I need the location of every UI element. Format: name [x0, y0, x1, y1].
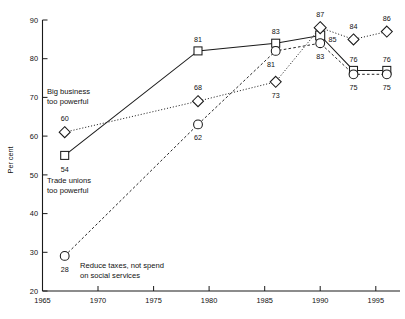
data-labels-big-business: 60 68 73 87 84 86	[61, 10, 391, 123]
annotation-trade-unions-line2: too powerful	[47, 186, 89, 195]
annotation-trade-unions-line1: Trade unions	[47, 176, 91, 185]
x-tick-label-1990: 1990	[312, 296, 328, 305]
data-label-square-1967: 54	[61, 165, 69, 174]
y-tick-label-20: 20	[30, 287, 38, 296]
annotation-big-business-line1: Big business	[47, 87, 90, 96]
annotation-trade-unions: Trade unions too powerful	[47, 176, 91, 195]
data-label-circle-1967: 28	[61, 265, 69, 274]
data-point-circle-1996	[382, 70, 391, 79]
data-label-circle-1996: 75	[383, 83, 391, 92]
y-tick-label-50: 50	[30, 171, 38, 180]
data-point-circle-1986	[271, 47, 280, 56]
data-point-circle-1979	[194, 120, 203, 129]
data-label-diamond-1986: 73	[272, 91, 280, 100]
y-tick-label-90: 90	[30, 16, 38, 25]
data-point-square-1979	[194, 47, 202, 55]
data-label-square-1979: 81	[194, 35, 202, 44]
series-markers-trade-unions	[61, 31, 391, 159]
data-point-square-1967	[61, 151, 69, 159]
data-label-circle-1993: 75	[350, 83, 358, 92]
x-tick-label-1975: 1975	[145, 296, 161, 305]
y-tick-label-40: 40	[30, 209, 38, 218]
data-label-square-1986: 83	[272, 27, 280, 36]
x-tick-label-1980: 1980	[201, 296, 217, 305]
data-label-diamond-1990: 87	[316, 10, 324, 19]
data-point-circle-1990	[316, 39, 325, 48]
data-point-diamond-1979	[193, 96, 204, 107]
data-label-diamond-1996: 86	[383, 14, 391, 23]
data-label-circle-1986: 81	[267, 60, 275, 69]
y-axis: 90 80 70 60 50 40 30 20 Per cent	[6, 16, 48, 296]
annotation-big-business-line2: too powerful	[47, 97, 89, 106]
data-label-square-1996: 76	[383, 55, 391, 64]
x-tick-label-1995: 1995	[368, 296, 384, 305]
chart-figure: 90 80 70 60 50 40 30 20 Per cent 1965 19…	[0, 0, 405, 319]
annotation-reduce-taxes: Reduce taxes, not spend on social servic…	[80, 261, 164, 280]
data-label-square-1990: 85	[329, 35, 337, 44]
data-label-diamond-1967: 60	[61, 114, 69, 123]
series-line-big-business	[65, 28, 387, 133]
annotation-reduce-taxes-line1: Reduce taxes, not spend	[80, 261, 164, 270]
data-label-diamond-1993: 84	[350, 22, 358, 31]
annotation-big-business: Big business too powerful	[47, 87, 90, 106]
data-labels-reduce-taxes: 28 62 81 83 75 75	[61, 52, 391, 274]
data-point-diamond-1993	[348, 34, 359, 45]
y-tick-label-70: 70	[30, 93, 38, 102]
series-markers-reduce-taxes	[60, 39, 391, 260]
data-label-circle-1979: 62	[194, 133, 202, 142]
x-tick-label-1970: 1970	[90, 296, 106, 305]
data-label-circle-1990: 83	[316, 52, 324, 61]
chart-svg: 90 80 70 60 50 40 30 20 Per cent 1965 19…	[0, 0, 405, 319]
x-axis: 1965 1970 1975 1980 1985 1990 1995	[34, 286, 400, 305]
x-tick-label-1965: 1965	[34, 296, 50, 305]
y-tick-label-60: 60	[30, 132, 38, 141]
data-point-circle-1967	[60, 252, 69, 261]
y-tick-label-80: 80	[30, 54, 38, 63]
annotation-reduce-taxes-line2: on social services	[80, 271, 140, 280]
data-point-diamond-1986	[270, 76, 281, 87]
data-point-diamond-1996	[381, 26, 392, 37]
y-tick-label-30: 30	[30, 248, 38, 257]
x-tick-label-1985: 1985	[256, 296, 272, 305]
data-point-circle-1993	[349, 70, 358, 79]
data-labels-trade-unions: 54 81 83 85 76 76	[61, 27, 391, 173]
data-label-square-1993: 76	[350, 55, 358, 64]
y-axis-title: Per cent	[6, 147, 15, 174]
series-line-reduce-taxes	[65, 43, 387, 256]
series-line-trade-unions	[65, 36, 387, 156]
data-label-diamond-1979: 68	[194, 83, 202, 92]
data-point-diamond-1967	[59, 127, 70, 138]
